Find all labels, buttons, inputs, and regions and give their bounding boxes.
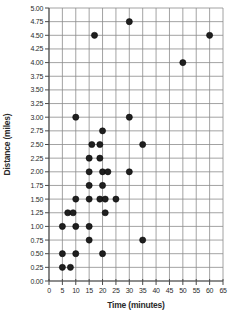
data-point: [99, 251, 105, 257]
data-point: [73, 196, 79, 202]
data-point: [86, 196, 92, 202]
x-tick-label: 20: [99, 287, 107, 294]
x-tick-label: 0: [47, 287, 51, 294]
data-point: [97, 155, 103, 161]
x-tick-label: 60: [206, 287, 214, 294]
data-point: [86, 169, 92, 175]
data-point: [99, 182, 105, 188]
y-axis-title: Distance (miles): [2, 113, 12, 175]
y-tick-label: 3.00: [31, 114, 44, 121]
y-tick-label: 2.75: [31, 127, 44, 134]
data-point: [70, 210, 76, 216]
y-tick-label: 0.50: [31, 250, 44, 257]
x-tick-label: 55: [193, 287, 201, 294]
data-point: [86, 237, 92, 243]
data-point: [86, 182, 92, 188]
data-point: [126, 169, 132, 175]
data-point: [102, 210, 108, 216]
y-tick-label: 2.00: [31, 168, 44, 175]
y-tick-label: 0.25: [31, 264, 44, 271]
y-tick-label: 1.50: [31, 196, 44, 203]
data-point: [86, 155, 92, 161]
x-axis-title: Time (minutes): [107, 300, 165, 310]
data-point: [113, 196, 119, 202]
scatter-plot: 051015202530354045505560650.000.250.500.…: [0, 0, 228, 324]
data-point: [73, 114, 79, 120]
y-tick-label: 4.75: [31, 18, 44, 25]
data-point: [73, 223, 79, 229]
y-tick-label: 1.25: [31, 209, 44, 216]
x-tick-label: 65: [219, 287, 227, 294]
y-tick-label: 2.25: [31, 155, 44, 162]
y-tick-label: 3.75: [31, 73, 44, 80]
data-point: [59, 251, 65, 257]
data-point: [102, 196, 108, 202]
y-tick-label: 3.50: [31, 86, 44, 93]
tick-labels: 051015202530354045505560650.000.250.500.…: [31, 5, 227, 295]
x-tick-label: 50: [179, 287, 187, 294]
x-tick-label: 40: [152, 287, 160, 294]
data-point: [91, 32, 97, 38]
x-tick-label: 15: [86, 287, 94, 294]
y-tick-label: 2.50: [31, 141, 44, 148]
data-point: [73, 251, 79, 257]
y-tick-label: 0.00: [31, 278, 44, 285]
y-tick-label: 0.75: [31, 237, 44, 244]
data-point: [180, 60, 186, 66]
gridlines: [49, 8, 223, 281]
data-point: [67, 264, 73, 270]
data-point: [99, 128, 105, 134]
data-point: [89, 141, 95, 147]
data-point: [126, 114, 132, 120]
data-point: [59, 223, 65, 229]
x-tick-label: 45: [166, 287, 174, 294]
data-point: [86, 223, 92, 229]
y-tick-label: 1.75: [31, 182, 44, 189]
x-tick-label: 5: [61, 287, 65, 294]
data-point: [140, 141, 146, 147]
x-tick-label: 25: [112, 287, 120, 294]
y-tick-label: 5.00: [31, 5, 44, 12]
y-tick-label: 4.00: [31, 59, 44, 66]
x-tick-label: 10: [72, 287, 80, 294]
y-tick-label: 4.50: [31, 32, 44, 39]
x-tick-label: 35: [139, 287, 147, 294]
data-point: [105, 169, 111, 175]
data-point: [126, 19, 132, 25]
y-tick-label: 4.25: [31, 45, 44, 52]
data-point: [140, 237, 146, 243]
y-tick-label: 1.00: [31, 223, 44, 230]
data-point: [97, 141, 103, 147]
data-point: [59, 264, 65, 270]
data-point: [207, 32, 213, 38]
scatter-plot-canvas: 051015202530354045505560650.000.250.500.…: [0, 0, 228, 324]
y-tick-label: 3.25: [31, 100, 44, 107]
x-tick-label: 30: [126, 287, 134, 294]
